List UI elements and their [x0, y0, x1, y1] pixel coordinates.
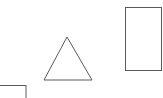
canvas-background — [0, 0, 163, 98]
diagram-canvas — [0, 0, 163, 98]
